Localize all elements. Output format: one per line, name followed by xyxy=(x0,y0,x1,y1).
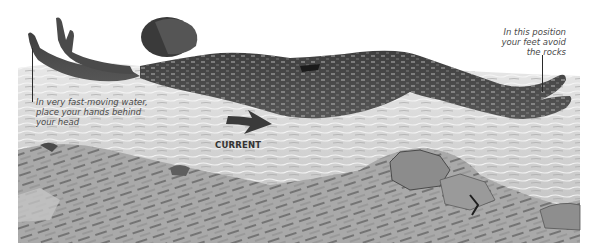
hands-leader-line xyxy=(32,48,33,102)
feet-annotation-line-1: In this position xyxy=(480,27,566,37)
current-label: CURRENT xyxy=(215,140,261,150)
hands-annotation-line-3: your head xyxy=(36,117,148,127)
feet-annotation: In this position your feet avoid the roc… xyxy=(480,27,566,57)
hands-annotation: In very fast-moving water, place your ha… xyxy=(36,97,148,127)
feet-leader-line xyxy=(542,55,543,92)
hands-annotation-line-2: place your hands behind xyxy=(36,107,148,117)
feet-annotation-line-3: the rocks xyxy=(480,47,566,57)
feet-annotation-line-2: your feet avoid xyxy=(480,37,566,47)
hands-annotation-line-1: In very fast-moving water, xyxy=(36,97,148,107)
